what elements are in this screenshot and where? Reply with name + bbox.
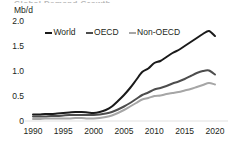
- chart-container: Global Demand Growth Mb/d 2.01.51.00.50 …: [0, 0, 232, 142]
- plot-area: [0, 0, 232, 142]
- series-line-world: [33, 31, 215, 115]
